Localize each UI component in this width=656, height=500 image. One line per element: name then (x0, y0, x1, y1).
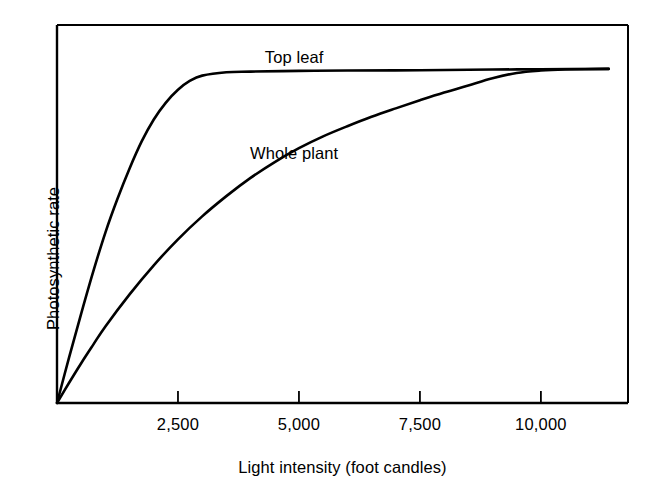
series-label-top-leaf: Top leaf (265, 48, 324, 67)
x-tick-label-10000: 10,000 (515, 415, 567, 434)
series-lines (57, 69, 609, 403)
plot-frame (57, 25, 628, 403)
series-line-top-leaf (57, 69, 609, 403)
x-axis-tick-marks (178, 391, 541, 403)
figure-container: Photosynthetic rate Light intensity (foo… (0, 0, 656, 500)
series-line-whole-plant (57, 69, 609, 403)
x-tick-label-5000: 5,000 (278, 415, 320, 434)
x-axis-title: Light intensity (foot candles) (57, 458, 628, 477)
x-tick-label-7500: 7,500 (399, 415, 441, 434)
x-tick-label-2500: 2,500 (157, 415, 199, 434)
series-label-whole-plant: Whole plant (250, 144, 338, 163)
y-axis-title: Photosynthetic rate (44, 30, 63, 330)
